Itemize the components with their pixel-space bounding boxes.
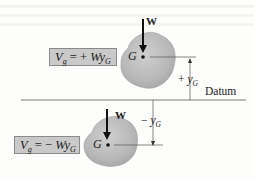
formula-lhs: V [20,138,28,152]
weight-label-lower: W [115,109,126,121]
formula-equals-sign: = + [67,50,90,64]
subscript: G [192,79,197,88]
sign: + [178,73,187,85]
formula-equals-sign: = − [32,138,55,152]
center-of-gravity-dot-upper [141,55,145,59]
sign: − [141,114,150,126]
weight-label-upper: W [146,15,157,27]
center-label-upper: G [128,49,137,64]
datum-label: Datum [205,85,236,97]
subscript: G [155,120,160,129]
formula-rhs-subscript: G [70,145,76,154]
formula-rhs: Wy [90,50,105,64]
center-of-gravity-dot-lower [106,143,110,147]
potential-energy-formula-negative: Vg = − WyG [14,136,80,154]
formula-rhs: Wy [55,138,70,152]
formula-lhs: V [55,50,63,64]
formula-rhs-subscript: G [105,57,111,66]
potential-energy-formula-positive: Vg = + WyG [49,48,117,66]
height-label-lower: − yG [141,114,161,129]
center-label-lower: G [93,137,102,152]
height-label-upper: + yG [178,73,198,88]
